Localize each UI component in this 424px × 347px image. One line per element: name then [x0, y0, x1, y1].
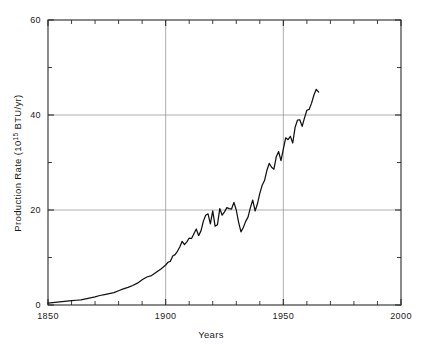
y-tick-label: 0 — [36, 300, 41, 310]
y-axis-title-tail: BTU/yr) — [12, 94, 23, 132]
y-tick-label: 20 — [30, 205, 41, 215]
x-axis-tick-labels: 1850190019502000 — [37, 311, 412, 321]
y-axis-title: Production Rate (1015 BTU/yr) — [12, 94, 24, 231]
x-tick-label: 2000 — [390, 311, 412, 321]
x-tick-label: 1850 — [37, 311, 59, 321]
x-tick-label: 1900 — [155, 311, 177, 321]
production-rate-curve — [48, 89, 319, 303]
y-tick-label: 60 — [30, 15, 41, 25]
y-axis-title-main: Production Rate (10 — [12, 140, 23, 231]
y-axis-ticks — [48, 20, 401, 305]
chart-svg: 1850190019502000 0204060 Years Productio… — [0, 0, 424, 347]
x-axis-ticks — [48, 20, 401, 305]
y-axis-tick-labels: 0204060 — [30, 15, 41, 310]
energy-production-chart: 1850190019502000 0204060 Years Productio… — [0, 0, 424, 347]
gridlines-group — [48, 20, 401, 305]
y-axis-title-exponent: 15 — [12, 133, 19, 141]
plot-frame-rect — [48, 20, 401, 305]
x-tick-label: 1950 — [273, 311, 295, 321]
y-tick-label: 40 — [30, 110, 41, 120]
plot-frame — [48, 20, 401, 305]
x-axis-title: Years — [198, 329, 224, 340]
